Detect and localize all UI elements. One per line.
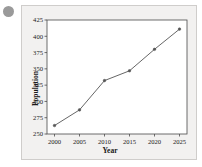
data-point-marker — [78, 109, 81, 112]
x-axis-tick-label: 2010 — [98, 138, 112, 145]
data-point-marker — [103, 79, 106, 82]
y-axis-tick-label: 425 — [33, 16, 44, 23]
y-axis-title: Population — [31, 71, 40, 106]
x-axis-tick-label: 2025 — [173, 138, 187, 145]
chart-plot-area: 2502753003253503754004252000200520102015… — [22, 6, 198, 161]
x-axis-tick-label: 2000 — [48, 138, 62, 145]
x-axis-tick-label: 2005 — [73, 138, 87, 145]
data-point-marker — [128, 70, 131, 73]
line-chart-svg: 2502753003253503754004252000200520102015… — [22, 6, 198, 161]
figure-page: 2502753003253503754004252000200520102015… — [0, 0, 202, 167]
y-axis-tick-label: 250 — [33, 130, 44, 137]
data-point-marker — [153, 48, 156, 51]
list-bullet-icon — [3, 6, 14, 17]
y-axis-tick-label: 375 — [33, 49, 44, 56]
x-axis-tick-label: 2015 — [123, 138, 137, 145]
y-axis-tick-label: 400 — [33, 33, 44, 40]
x-axis-tick-label: 2020 — [148, 138, 162, 145]
x-axis-title: Year — [22, 146, 198, 155]
chart-card: 2502753003253503754004252000200520102015… — [21, 5, 197, 160]
data-point-marker — [53, 124, 56, 127]
data-point-marker — [178, 28, 181, 31]
y-axis-tick-label: 275 — [33, 114, 44, 121]
